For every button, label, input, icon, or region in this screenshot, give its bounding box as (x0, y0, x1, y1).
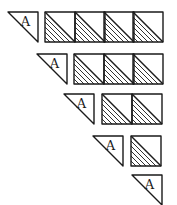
triangle-label: A (105, 138, 116, 153)
triangle-a-piece: A (37, 54, 67, 84)
hatched-square (102, 94, 132, 124)
triangle-a-piece: A (64, 94, 94, 124)
hatched-square (104, 54, 134, 84)
hatched-square (74, 54, 104, 84)
row-5: A (132, 175, 162, 205)
triangle-a-piece: A (132, 175, 162, 205)
triangle-label: A (144, 177, 155, 192)
hatched-square (133, 12, 163, 42)
hatched-square (131, 136, 161, 166)
row-2: A (37, 54, 163, 84)
row-3: A (64, 94, 162, 124)
hatched-square (45, 12, 75, 42)
triangle-a-piece: A (93, 136, 123, 166)
hatched-square (132, 94, 162, 124)
row-1: A (8, 12, 163, 42)
triangle-label: A (20, 14, 31, 29)
triangle-label: A (49, 56, 60, 71)
row-4: A (93, 136, 161, 166)
hatched-square (75, 12, 105, 42)
triangle-a-piece: A (8, 12, 38, 42)
hatched-square (104, 12, 134, 42)
hatched-square (133, 54, 163, 84)
staircase-diagram: AAAAA (0, 0, 177, 205)
triangle-label: A (76, 96, 87, 111)
